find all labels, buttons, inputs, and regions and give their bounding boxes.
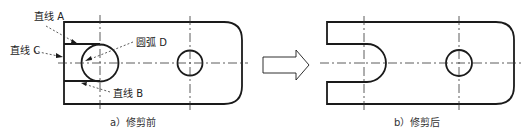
figure-b-drawing — [320, 16, 521, 110]
leader-line-a — [46, 26, 76, 43]
arrowhead-line-b — [81, 82, 87, 86]
label-line-c: 直线 C — [10, 46, 40, 56]
caption-before: a）修剪前 — [110, 118, 156, 128]
label-arc-d: 圆弧 D — [136, 38, 167, 48]
transition-arrow-icon — [263, 50, 309, 80]
trim-diagram — [0, 0, 528, 133]
caption-after: b）修剪后 — [394, 118, 440, 128]
arrowhead-line-c — [56, 53, 63, 58]
label-line-b: 直线 B — [113, 89, 143, 99]
arrowhead-arc-d — [85, 56, 92, 61]
leader-line-b — [84, 84, 110, 92]
label-line-a: 直线 A — [34, 12, 64, 22]
